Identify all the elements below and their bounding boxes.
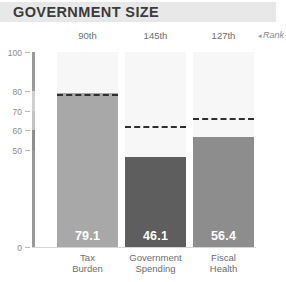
category-label-government-spending-text: GovernmentSpending (129, 252, 181, 274)
category-label-tax-burden-text: TaxBurden (72, 252, 103, 274)
ytick-label-70: 70 (0, 107, 22, 117)
y-axis-spine-70-60 (32, 111, 35, 130)
x-axis-baseline (32, 247, 256, 248)
bar-value-tax-burden: 79.1 (57, 229, 118, 243)
ytick-label-60: 60 (0, 126, 22, 136)
average-marker-tax-burden (57, 94, 118, 96)
bar-value-fiscal-health: 56.4 (193, 229, 254, 243)
average-marker-government-spending (125, 126, 186, 128)
ytick-mark-60 (25, 130, 30, 131)
chart-plot-area: 100 80 70 60 50 0 79.1 46.1 56.4 TaxBurd… (0, 0, 286, 282)
category-label-fiscal-health: FiscalHealth (193, 252, 254, 274)
ytick-label-50: 50 (0, 146, 22, 156)
ytick-mark-50 (25, 150, 30, 151)
y-axis-spine-top (32, 52, 35, 91)
bar-fiscal-health[interactable]: 56.4 (193, 137, 254, 247)
ytick-label-100: 100 (0, 48, 22, 58)
ytick-mark-70 (25, 111, 30, 112)
bar-value-government-spending: 46.1 (125, 229, 186, 243)
bar-tax-burden[interactable]: 79.1 (57, 93, 118, 247)
y-axis-spine-60-50 (32, 130, 35, 150)
ytick-mark-80 (25, 91, 30, 92)
y-axis-spine-bottom (32, 150, 35, 247)
y-axis-spine-80-70 (32, 91, 35, 111)
ytick-label-80: 80 (0, 87, 22, 97)
category-label-government-spending: GovernmentSpending (120, 252, 191, 274)
bar-government-spending[interactable]: 46.1 (125, 157, 186, 247)
category-label-tax-burden: TaxBurden (57, 252, 118, 274)
ytick-mark-100 (25, 52, 30, 53)
ytick-mark-0 (25, 247, 30, 248)
average-marker-fiscal-health (193, 118, 254, 120)
ytick-label-0: 0 (0, 243, 22, 253)
category-label-fiscal-health-text: FiscalHealth (210, 252, 237, 274)
